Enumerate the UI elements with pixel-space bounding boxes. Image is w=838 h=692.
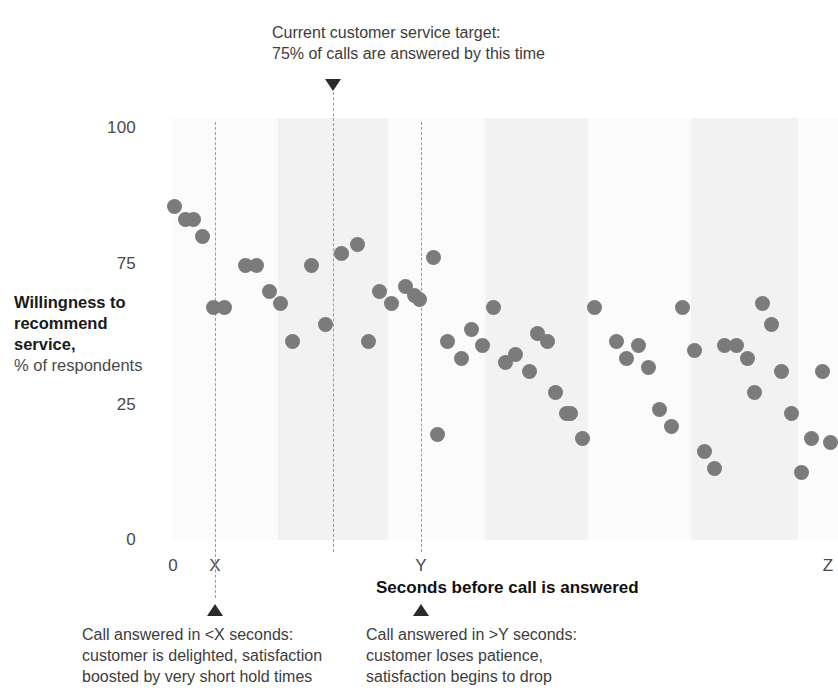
scatter-point: [167, 199, 182, 214]
reference-line-target: [333, 118, 334, 552]
scatter-point: [430, 427, 445, 442]
scatter-point: [664, 419, 679, 434]
scatter-point: [815, 364, 830, 379]
x-axis-title: Seconds before call is answered: [376, 578, 639, 598]
right-annotation-line3: satisfaction begins to drop: [366, 666, 646, 687]
target-annotation-line2: 75% of calls are answered by this time: [272, 43, 692, 64]
scatter-point: [631, 338, 646, 353]
scatter-point: [195, 229, 210, 244]
scatter-point: [641, 360, 656, 375]
background-band: [691, 118, 798, 540]
scatter-point: [522, 364, 537, 379]
left-annotation-line3: boosted by very short hold times: [82, 666, 372, 687]
reference-line-y: [421, 122, 422, 552]
scatter-point: [619, 351, 634, 366]
left-annotation-line2: customer is delighted, satisfaction: [82, 645, 372, 666]
x-tick-z: Z: [808, 556, 838, 576]
y-tick-100: 100: [76, 118, 136, 138]
left-annotation-line1: Call answered in <X seconds:: [82, 624, 372, 645]
x-tick-y: Y: [401, 556, 441, 576]
scatter-point: [652, 402, 667, 417]
scatter-point: [454, 351, 469, 366]
scatter-point: [729, 338, 744, 353]
y-tick-75: 75: [76, 254, 136, 274]
left-callout-triangle-icon: [207, 604, 223, 616]
scatter-point: [774, 364, 789, 379]
target-annotation: Current customer service target: 75% of …: [272, 22, 692, 64]
scatter-plot-area: [172, 118, 838, 540]
scatter-point: [747, 385, 762, 400]
scatter-point: [548, 385, 563, 400]
scatter-point: [440, 334, 455, 349]
x-tick-0: 0: [153, 556, 193, 576]
scatter-point: [350, 237, 365, 252]
scatter-point: [334, 246, 349, 261]
left-callout-stem: [215, 544, 216, 598]
scatter-point: [804, 431, 819, 446]
scatter-point: [318, 317, 333, 332]
y-axis-title-sub: % of respondents: [14, 355, 164, 376]
target-annotation-line1: Current customer service target:: [272, 22, 692, 43]
scatter-point: [372, 284, 387, 299]
scatter-point: [707, 461, 722, 476]
y-axis-title-main: Willingness to recommend service,: [14, 292, 164, 355]
scatter-point: [823, 435, 838, 450]
right-callout-triangle-icon: [413, 604, 429, 616]
right-annotation-line1: Call answered in >Y seconds:: [366, 624, 646, 645]
scatter-point: [186, 212, 201, 227]
left-annotation: Call answered in <X seconds: customer is…: [82, 624, 372, 687]
scatter-point: [740, 351, 755, 366]
y-tick-25: 25: [76, 395, 136, 415]
scatter-point: [540, 334, 555, 349]
scatter-point: [508, 347, 523, 362]
target-marker-triangle-icon: [325, 79, 341, 91]
right-annotation: Call answered in >Y seconds: customer lo…: [366, 624, 646, 687]
scatter-point: [687, 343, 702, 358]
scatter-point: [464, 322, 479, 337]
scatter-point: [784, 406, 799, 421]
reference-line-x: [215, 122, 216, 552]
y-axis-title: Willingness to recommend service, % of r…: [14, 292, 164, 376]
scatter-point: [262, 284, 277, 299]
chart-page: Current customer service target: 75% of …: [0, 0, 838, 692]
scatter-point: [426, 250, 441, 265]
scatter-point: [794, 465, 809, 480]
right-annotation-line2: customer loses patience,: [366, 645, 646, 666]
y-tick-0: 0: [76, 530, 136, 550]
